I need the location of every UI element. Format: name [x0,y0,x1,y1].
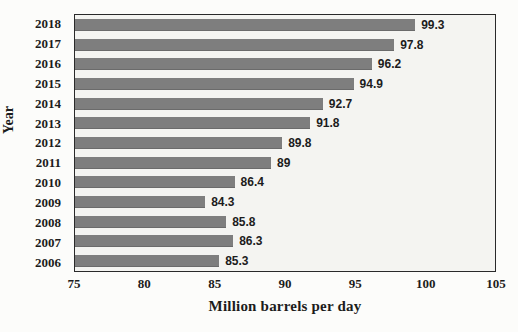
bar-row: 97.8 [75,35,495,55]
x-axis-title: Million barrels per day [74,298,496,315]
x-tick-label: 95 [349,277,362,290]
bars-container: 99.397.896.294.992.791.889.88986.484.385… [75,15,495,271]
bar-row: 86.3 [75,232,495,252]
year-tick-label: 2011 [0,153,68,173]
year-tick-label: 2018 [0,14,68,34]
bar-value-label: 86.3 [239,235,262,247]
bar [75,235,233,247]
bar-row: 96.2 [75,54,495,74]
bar [75,78,354,90]
bar-row: 85.3 [75,251,495,271]
bar-value-label: 89 [277,157,290,169]
bar-value-label: 92.7 [329,98,352,110]
year-tick-label: 2010 [0,173,68,193]
bar-row: 92.7 [75,94,495,114]
x-tick-label: 100 [416,277,436,290]
bar [75,196,205,208]
year-tick-label: 2016 [0,54,68,74]
bar [75,117,310,129]
year-tick-label: 2017 [0,34,68,54]
bar-value-label: 91.8 [316,117,339,129]
bar [75,157,271,169]
bar-value-label: 86.4 [241,176,264,188]
x-tick-label: 75 [68,277,81,290]
bar-value-label: 89.8 [288,137,311,149]
bar-value-label: 84.3 [211,196,234,208]
x-tick-label: 85 [208,277,221,290]
bar-value-label: 99.3 [421,19,444,31]
oil-consumption-bar-chart: Year 20182017201620152014201320122011201… [0,0,518,332]
year-tick-label: 2008 [0,212,68,232]
y-axis-labels: 2018201720162015201420132012201120102009… [0,14,68,272]
bar [75,216,226,228]
bar [75,137,282,149]
bar-value-label: 85.8 [232,216,255,228]
bar-row: 94.9 [75,74,495,94]
bar [75,98,323,110]
year-tick-label: 2009 [0,193,68,213]
year-tick-label: 2014 [0,93,68,113]
x-tick-label: 90 [279,277,292,290]
year-tick-label: 2012 [0,133,68,153]
bar-row: 84.3 [75,192,495,212]
year-tick-label: 2013 [0,113,68,133]
bar [75,176,235,188]
year-tick-label: 2015 [0,74,68,94]
bar-row: 85.8 [75,212,495,232]
bar-row: 91.8 [75,113,495,133]
x-tick-label: 80 [138,277,151,290]
bar [75,19,415,31]
bar-value-label: 94.9 [360,78,383,90]
x-axis-ticks: 7580859095100105 [74,277,496,293]
bar-value-label: 97.8 [400,39,423,51]
plot-area: 99.397.896.294.992.791.889.88986.484.385… [74,14,496,272]
bar-value-label: 85.3 [225,255,248,267]
bar [75,255,219,267]
bar-row: 89 [75,153,495,173]
bar-value-label: 96.2 [378,58,401,70]
bar-row: 89.8 [75,133,495,153]
bar [75,39,394,51]
bar-row: 99.3 [75,15,495,35]
bar [75,58,372,70]
bar-row: 86.4 [75,173,495,193]
year-tick-label: 2007 [0,232,68,252]
x-tick-label: 105 [486,277,506,290]
year-tick-label: 2006 [0,252,68,272]
